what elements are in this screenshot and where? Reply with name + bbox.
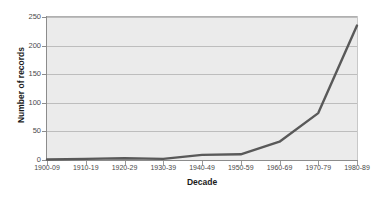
x-axis-title: Decade [47,177,357,187]
data-series-line [47,17,357,160]
y-axis-title: Number of records [16,25,26,145]
line-chart: 050100150200250 1900-091910-191920-29193… [0,0,379,197]
plot-right-border [357,16,358,161]
x-axis-tick-label: 1920-29 [103,163,147,172]
x-axis-tick-label: 1950-59 [219,163,263,172]
x-axis-tick-label: 1980-89 [335,163,379,172]
x-axis-tick-label: 1900-09 [25,163,69,172]
x-axis-tick-label: 1940-49 [180,163,224,172]
x-axis-tick-label: 1970-79 [296,163,340,172]
y-axis-tick-label: 250 [15,13,41,21]
x-axis-tick-label: 1960-69 [258,163,302,172]
x-axis-tick-label: 1930-39 [141,163,185,172]
x-axis-tick-label: 1910-19 [64,163,108,172]
